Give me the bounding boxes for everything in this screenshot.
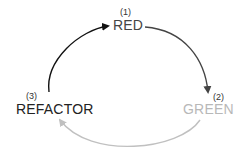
arrow-green-to-refactor [60,120,200,146]
red-label: RED [113,17,143,33]
refactor-label: REFACTOR [16,101,94,117]
arrow-refactor-to-red [49,26,108,92]
refactor-step-number: (3) [26,91,37,101]
red-step-number: (1) [120,7,131,17]
green-label: GREEN [183,101,234,117]
arrow-red-to-green [145,27,208,92]
